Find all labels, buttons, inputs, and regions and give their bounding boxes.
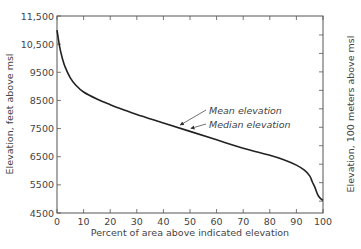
x-tick-label: 0 (54, 216, 60, 227)
x-tick-label: 60 (211, 216, 223, 227)
y-tick-label: 8500 (30, 95, 54, 106)
y-tick-label: 7500 (30, 123, 54, 134)
hypsometric-line (57, 30, 323, 200)
mean-elevation-label: Mean elevation (209, 105, 282, 116)
leader-arrow (191, 124, 206, 128)
x-tick-label: 70 (237, 216, 249, 227)
leader-arrow (180, 110, 206, 125)
y-axis-label-left: Elevation, feet above msl (4, 54, 15, 175)
plot-frame (57, 16, 323, 213)
x-axis-label: Percent of area above indicated elevatio… (91, 227, 289, 238)
y-tick-label: 9500 (30, 67, 54, 78)
y-tick-label: 10,500 (21, 39, 54, 50)
annotations: Mean elevationMedian elevation (180, 105, 290, 130)
hypsometric-chart: 0102030405060708090100450055006500750085… (0, 0, 361, 249)
y-tick-label: 5500 (30, 179, 54, 190)
median-elevation-label: Median elevation (209, 119, 291, 130)
x-tick-label: 10 (78, 216, 90, 227)
elevation-curve (57, 30, 323, 200)
x-tick-label: 30 (131, 216, 143, 227)
x-tick-label: 40 (157, 216, 169, 227)
y-tick-label: 6500 (30, 151, 54, 162)
x-tick-label: 50 (184, 216, 196, 227)
y-axis-label-right: Elevation, 100 meters above msl (345, 36, 356, 193)
x-tick-label: 80 (264, 216, 276, 227)
x-tick-label: 90 (290, 216, 302, 227)
x-tick-label: 100 (314, 216, 332, 227)
y-tick-label: 11,500 (21, 11, 54, 22)
y-tick-label: 4500 (30, 208, 54, 219)
x-tick-label: 20 (104, 216, 116, 227)
